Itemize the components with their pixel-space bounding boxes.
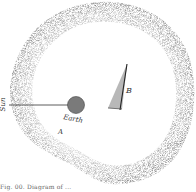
figure-caption: Fig. 00. Diagram of ... — [0, 183, 71, 190]
b-wedge-icon — [108, 64, 127, 110]
diagram-figure — [0, 0, 196, 192]
earth-icon — [68, 97, 85, 114]
label-a: A — [58, 129, 63, 136]
envelope-ring — [10, 2, 194, 184]
label-sun: Sun — [0, 98, 7, 112]
label-b: B — [126, 87, 132, 95]
